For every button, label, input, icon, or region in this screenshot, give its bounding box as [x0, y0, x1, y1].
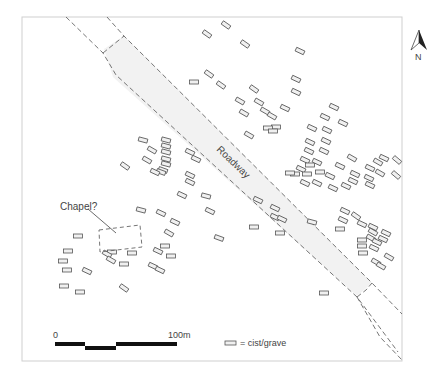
- legend-label: = cist/grave: [240, 338, 286, 348]
- north-arrow-icon: [411, 30, 427, 50]
- grave-marker: [161, 244, 170, 248]
- chapel-label: Chapel?: [60, 201, 98, 212]
- grave-marker: [59, 259, 68, 263]
- grave-marker: [316, 170, 325, 174]
- grave-marker: [359, 251, 368, 255]
- grave-marker: [276, 231, 285, 235]
- grave-marker: [128, 251, 137, 255]
- grave-marker: [63, 268, 72, 272]
- grave-marker: [76, 290, 85, 294]
- scale-start-label: 0: [53, 330, 58, 340]
- grave-marker: [60, 284, 69, 288]
- grave-marker: [64, 249, 73, 253]
- legend-grave-swatch-icon: [225, 341, 236, 345]
- grave-marker: [358, 244, 367, 248]
- cemetery-site-plan: Roadway Chapel? N 0 100m = cist/grave: [0, 0, 441, 376]
- scale-end-label: 100m: [168, 330, 191, 340]
- grave-marker: [167, 254, 176, 258]
- grave-marker: [74, 234, 83, 238]
- grave-marker: [286, 171, 295, 175]
- grave-marker: [120, 262, 129, 266]
- grave-marker: [269, 129, 278, 133]
- grave-marker: [336, 227, 345, 231]
- grave-marker: [320, 291, 329, 295]
- map-frame: [22, 17, 402, 361]
- grave-marker: [306, 163, 315, 167]
- grave-marker: [190, 80, 199, 84]
- grave-marker: [358, 238, 367, 242]
- north-label: N: [415, 52, 422, 62]
- grave-marker: [250, 225, 259, 229]
- grave-marker: [303, 172, 312, 176]
